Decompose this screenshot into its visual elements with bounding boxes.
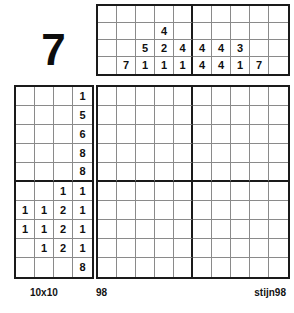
puzzle-cell-r4c4[interactable] — [155, 144, 174, 163]
puzzle-cell-r10c1[interactable] — [98, 258, 117, 277]
puzzle-cell-r3c4[interactable] — [155, 125, 174, 144]
puzzle-cell-r10c8[interactable] — [231, 258, 250, 277]
puzzle-cell-r9c6[interactable] — [193, 239, 212, 258]
puzzle-cell-r6c5[interactable] — [174, 182, 193, 201]
puzzle-cell-r2c1[interactable] — [98, 106, 117, 125]
puzzle-cell-r2c4[interactable] — [155, 106, 174, 125]
puzzle-cell-r8c3[interactable] — [136, 220, 155, 239]
puzzle-cell-r4c6[interactable] — [193, 144, 212, 163]
puzzle-cell-r6c10[interactable] — [269, 182, 288, 201]
puzzle-cell-r3c7[interactable] — [212, 125, 231, 144]
puzzle-cell-r6c3[interactable] — [136, 182, 155, 201]
puzzle-cell-r9c5[interactable] — [174, 239, 193, 258]
puzzle-cell-r5c2[interactable] — [117, 163, 136, 182]
puzzle-cell-r10c10[interactable] — [269, 258, 288, 277]
puzzle-cell-r6c9[interactable] — [250, 182, 269, 201]
puzzle-cell-r10c6[interactable] — [193, 258, 212, 277]
puzzle-cell-r7c3[interactable] — [136, 201, 155, 220]
puzzle-cell-r9c4[interactable] — [155, 239, 174, 258]
puzzle-cell-r2c2[interactable] — [117, 106, 136, 125]
puzzle-cell-r8c1[interactable] — [98, 220, 117, 239]
puzzle-cell-r7c5[interactable] — [174, 201, 193, 220]
puzzle-cell-r1c4[interactable] — [155, 87, 174, 106]
puzzle-cell-r5c5[interactable] — [174, 163, 193, 182]
puzzle-cell-r3c5[interactable] — [174, 125, 193, 144]
puzzle-cell-r1c5[interactable] — [174, 87, 193, 106]
puzzle-cell-r9c3[interactable] — [136, 239, 155, 258]
puzzle-cell-r2c5[interactable] — [174, 106, 193, 125]
puzzle-cell-r3c9[interactable] — [250, 125, 269, 144]
puzzle-cell-r3c2[interactable] — [117, 125, 136, 144]
puzzle-cell-r2c6[interactable] — [193, 106, 212, 125]
puzzle-cell-r6c4[interactable] — [155, 182, 174, 201]
puzzle-cell-r4c2[interactable] — [117, 144, 136, 163]
puzzle-cell-r10c4[interactable] — [155, 258, 174, 277]
puzzle-cell-r5c10[interactable] — [269, 163, 288, 182]
puzzle-cell-r5c9[interactable] — [250, 163, 269, 182]
puzzle-cell-r8c5[interactable] — [174, 220, 193, 239]
puzzle-cell-r8c8[interactable] — [231, 220, 250, 239]
puzzle-cell-r3c3[interactable] — [136, 125, 155, 144]
puzzle-cell-r7c10[interactable] — [269, 201, 288, 220]
puzzle-cell-r1c1[interactable] — [98, 87, 117, 106]
puzzle-cell-r1c3[interactable] — [136, 87, 155, 106]
puzzle-cell-r9c8[interactable] — [231, 239, 250, 258]
puzzle-cell-r6c2[interactable] — [117, 182, 136, 201]
puzzle-cell-r3c8[interactable] — [231, 125, 250, 144]
puzzle-cell-r9c9[interactable] — [250, 239, 269, 258]
puzzle-cell-r5c4[interactable] — [155, 163, 174, 182]
puzzle-cell-r7c1[interactable] — [98, 201, 117, 220]
puzzle-cell-r8c10[interactable] — [269, 220, 288, 239]
puzzle-cell-r9c1[interactable] — [98, 239, 117, 258]
puzzle-cell-r2c10[interactable] — [269, 106, 288, 125]
puzzle-cell-r1c7[interactable] — [212, 87, 231, 106]
puzzle-cell-r10c5[interactable] — [174, 258, 193, 277]
puzzle-cell-r4c8[interactable] — [231, 144, 250, 163]
puzzle-cell-r4c1[interactable] — [98, 144, 117, 163]
puzzle-cell-r8c4[interactable] — [155, 220, 174, 239]
puzzle-cell-r7c2[interactable] — [117, 201, 136, 220]
puzzle-cell-r7c4[interactable] — [155, 201, 174, 220]
puzzle-cell-r4c9[interactable] — [250, 144, 269, 163]
puzzle-cell-r8c6[interactable] — [193, 220, 212, 239]
puzzle-cell-r1c8[interactable] — [231, 87, 250, 106]
puzzle-cell-r1c9[interactable] — [250, 87, 269, 106]
puzzle-cell-r8c2[interactable] — [117, 220, 136, 239]
puzzle-cell-r10c2[interactable] — [117, 258, 136, 277]
puzzle-cell-r3c6[interactable] — [193, 125, 212, 144]
puzzle-cell-r2c8[interactable] — [231, 106, 250, 125]
main-puzzle-grid[interactable] — [96, 85, 290, 279]
puzzle-cell-r9c2[interactable] — [117, 239, 136, 258]
puzzle-cell-r10c9[interactable] — [250, 258, 269, 277]
puzzle-cell-r3c1[interactable] — [98, 125, 117, 144]
puzzle-cell-r4c10[interactable] — [269, 144, 288, 163]
puzzle-cell-r10c3[interactable] — [136, 258, 155, 277]
puzzle-cell-r7c9[interactable] — [250, 201, 269, 220]
puzzle-cell-r7c7[interactable] — [212, 201, 231, 220]
puzzle-cell-r4c7[interactable] — [212, 144, 231, 163]
puzzle-cell-r6c8[interactable] — [231, 182, 250, 201]
puzzle-cell-r1c2[interactable] — [117, 87, 136, 106]
puzzle-cell-r6c1[interactable] — [98, 182, 117, 201]
puzzle-cell-r9c10[interactable] — [269, 239, 288, 258]
puzzle-cell-r8c9[interactable] — [250, 220, 269, 239]
puzzle-cell-r2c3[interactable] — [136, 106, 155, 125]
puzzle-cell-r4c5[interactable] — [174, 144, 193, 163]
puzzle-cell-r2c7[interactable] — [212, 106, 231, 125]
puzzle-cell-r5c1[interactable] — [98, 163, 117, 182]
puzzle-cell-r5c7[interactable] — [212, 163, 231, 182]
puzzle-cell-r9c7[interactable] — [212, 239, 231, 258]
puzzle-cell-r6c6[interactable] — [193, 182, 212, 201]
puzzle-cell-r5c8[interactable] — [231, 163, 250, 182]
puzzle-cell-r6c7[interactable] — [212, 182, 231, 201]
puzzle-cell-r7c6[interactable] — [193, 201, 212, 220]
puzzle-cell-r1c6[interactable] — [193, 87, 212, 106]
puzzle-cell-r4c3[interactable] — [136, 144, 155, 163]
puzzle-cell-r5c6[interactable] — [193, 163, 212, 182]
puzzle-cell-r10c7[interactable] — [212, 258, 231, 277]
puzzle-cell-r3c10[interactable] — [269, 125, 288, 144]
puzzle-cell-r7c8[interactable] — [231, 201, 250, 220]
puzzle-cell-r8c7[interactable] — [212, 220, 231, 239]
puzzle-cell-r5c3[interactable] — [136, 163, 155, 182]
puzzle-cell-r2c9[interactable] — [250, 106, 269, 125]
